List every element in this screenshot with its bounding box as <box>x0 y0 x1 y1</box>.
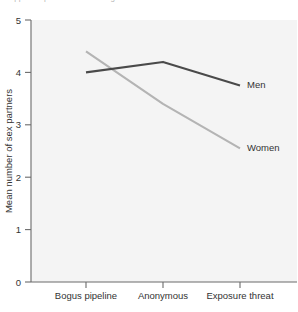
y-tick-label-1: 1 <box>16 224 21 235</box>
x-axis-label-anonymous: Anonymous <box>138 290 188 301</box>
y-tick-label-3: 3 <box>16 119 21 130</box>
y-tick-label-0: 0 <box>16 277 21 288</box>
x-axis-label-exposure-threat: Exposure threat <box>206 290 273 301</box>
y-axis-title: Mean number of sex partners <box>3 89 14 213</box>
line-chart: 5 4 3 2 1 0 Mean number of sex partners … <box>0 0 298 312</box>
x-axis-label-bogus-pipeline: Bogus pipeline <box>55 290 117 301</box>
series-label-men: Men <box>247 79 265 90</box>
y-tick-label-5: 5 <box>16 15 21 26</box>
y-tick-label-4: 4 <box>16 67 21 78</box>
figure-container: clipped caption text above figure 5 4 3 … <box>0 0 298 312</box>
y-tick-label-2: 2 <box>16 172 21 183</box>
series-label-women: Women <box>247 142 280 153</box>
